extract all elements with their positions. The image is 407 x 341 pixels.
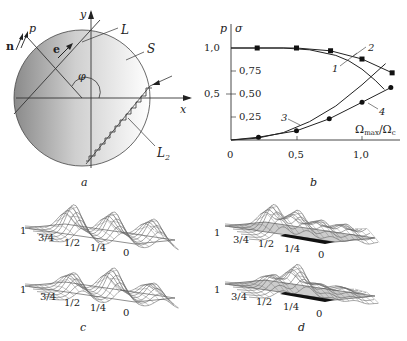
sigma-tick-0-50: 0,50 <box>239 88 261 99</box>
data-point-marker <box>294 46 299 51</box>
label-p: p <box>29 22 36 35</box>
c-top-tick-1-4: 1/4 <box>90 242 106 253</box>
caption-d: d <box>298 321 305 334</box>
data-point-marker <box>294 128 299 133</box>
caption-a: a <box>81 176 88 189</box>
x-tick-1-0: 1,0 <box>353 149 369 160</box>
panel-b: p σ 1,0 0,5 0,75 0,50 0,25 0 0,5 1,0 Ωma… <box>200 0 407 200</box>
surface-d-bottom <box>225 264 379 304</box>
label-y: y <box>79 8 87 21</box>
label-l2: L2 <box>156 146 170 162</box>
label-x: x <box>180 103 187 116</box>
c-bot-tick-0: 0 <box>123 307 129 318</box>
wireframe-c: 1 3/4 1/2 1/4 0 1 3/4 1/2 1/4 0 c <box>0 190 207 341</box>
data-point-marker <box>360 57 365 62</box>
d-bot-tick-0: 0 <box>316 308 322 319</box>
curve-label-4: 4 <box>378 106 385 117</box>
y-right-label: σ <box>235 22 243 35</box>
y-left-label: p <box>220 22 227 35</box>
d-top-tick-0: 0 <box>318 249 324 260</box>
x-tick-0: 0 <box>227 149 233 160</box>
c-top-tick-0: 0 <box>123 247 129 258</box>
label-l: L <box>120 23 129 37</box>
x-axis-arrow-icon <box>183 95 192 101</box>
label-phi: φ <box>78 70 86 83</box>
data-point-marker <box>327 116 332 121</box>
sigma-tick-0-25: 0,25 <box>239 111 261 122</box>
d-top-tick-3-4: 3/4 <box>233 234 249 245</box>
sigma-tick-0-75: 0,75 <box>239 65 261 76</box>
caption-c: c <box>80 321 86 334</box>
y-tick-0-5: 0,5 <box>204 88 220 99</box>
d-bot-tick-1-2: 1/2 <box>256 296 272 307</box>
c-bot-tick-3-4: 3/4 <box>40 291 56 302</box>
data-point-marker <box>388 85 393 90</box>
wireframe-d: 1 3/4 1/2 1/4 0 1 3/4 1/2 1/4 0 d <box>200 190 407 341</box>
data-point-marker <box>255 46 260 51</box>
d-top-tick-1-2: 1/2 <box>258 238 274 249</box>
x-axis-label: Ωmax/Ωc <box>355 123 396 137</box>
label-e: e <box>53 43 60 56</box>
data-point-marker <box>390 70 395 75</box>
y-tick-1-0: 1,0 <box>204 42 220 53</box>
d-bot-tick-1-4: 1/4 <box>283 301 299 312</box>
x-tick-0-5: 0,5 <box>288 149 304 160</box>
curve-label-2: 2 <box>367 42 374 53</box>
curve-label-1: 1 <box>332 63 338 74</box>
c-bot-tick-1: 1 <box>20 284 26 295</box>
panel-c: 1 3/4 1/2 1/4 0 1 3/4 1/2 1/4 0 c <box>0 190 207 341</box>
c-bot-tick-1-2: 1/2 <box>64 297 80 308</box>
d-top-tick-1: 1 <box>214 227 220 238</box>
panel-a: n p e y x L S φ L2 a <box>0 0 200 200</box>
curve-label-3: 3 <box>281 112 287 123</box>
c-top-tick-3-4: 3/4 <box>38 232 54 243</box>
data-point-marker <box>328 48 333 53</box>
label-n: n <box>6 40 14 53</box>
chart-b: p σ 1,0 0,5 0,75 0,50 0,25 0 0,5 1,0 Ωma… <box>200 0 407 200</box>
panel-d: 1 3/4 1/2 1/4 0 1 3/4 1/2 1/4 0 d <box>200 190 407 341</box>
d-bot-tick-1: 1 <box>214 284 220 295</box>
c-bot-tick-1-4: 1/4 <box>90 302 106 313</box>
y-axis-arrow-icon <box>88 10 94 19</box>
label-s: S <box>147 42 155 56</box>
data-point-marker <box>256 135 261 140</box>
data-point-marker <box>360 100 365 105</box>
d-top-tick-1-4: 1/4 <box>284 243 300 254</box>
d-bot-tick-3-4: 3/4 <box>231 291 247 302</box>
c-top-tick-1-2: 1/2 <box>64 237 80 248</box>
caption-b: b <box>310 176 317 189</box>
c-top-tick-1: 1 <box>20 225 26 236</box>
circle-diagram: n p e y x L S φ L2 a <box>0 0 200 200</box>
